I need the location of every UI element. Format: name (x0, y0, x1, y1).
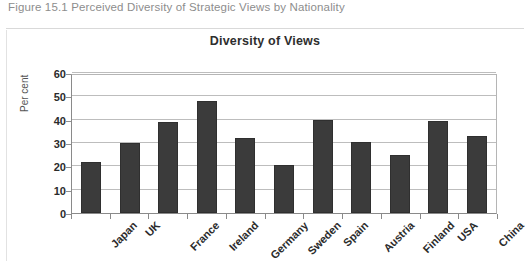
bar-slot (457, 75, 496, 213)
bar[interactable] (467, 136, 487, 213)
bar-slot (342, 75, 381, 213)
x-tick-label: Germany (268, 219, 310, 261)
bar[interactable] (197, 101, 217, 213)
y-axis-label: Per cent (19, 75, 30, 112)
x-tick-label: Finland (421, 219, 457, 255)
bar-slot (72, 75, 111, 213)
bar-slot (188, 75, 227, 213)
y-tick-label: 20 (54, 162, 66, 173)
figure-root: Figure 15.1 Perceived Diversity of Strat… (0, 0, 530, 261)
bar[interactable] (120, 143, 140, 213)
gridline (72, 72, 496, 73)
y-tick-label: 50 (54, 92, 66, 103)
bar-slot (380, 75, 419, 213)
bar-slot (111, 75, 150, 213)
x-tick-label: Sweden (305, 219, 343, 257)
plot-area (71, 74, 497, 214)
bar-slot (149, 75, 188, 213)
x-tick-label: China (496, 219, 526, 249)
x-tick-label: Ireland (226, 219, 260, 253)
y-tick-label: 40 (54, 115, 66, 126)
y-axis-tick-labels: 0102030405060 (36, 66, 66, 221)
x-tick-mark (497, 214, 498, 219)
x-tick-label: UK (143, 219, 163, 239)
bar-slot (265, 75, 304, 213)
bar[interactable] (274, 165, 294, 213)
x-tick-label: USA (455, 219, 480, 244)
bar[interactable] (313, 120, 333, 213)
y-tick-label: 60 (54, 69, 66, 80)
y-tick-label: 30 (54, 139, 66, 150)
bar[interactable] (351, 142, 371, 213)
bar[interactable] (158, 122, 178, 213)
x-tick-label: Spain (340, 219, 370, 249)
y-tick-label: 10 (54, 185, 66, 196)
x-axis-tick-labels: JapanUKFranceIrelandGermanySwedenSpainAu… (71, 219, 497, 261)
bar-chart: Per cent 0102030405060 JapanUKFranceIrel… (0, 0, 530, 261)
bar-series (72, 75, 496, 213)
bar[interactable] (81, 162, 101, 213)
bar-slot (226, 75, 265, 213)
bar[interactable] (235, 138, 255, 213)
bar-slot (419, 75, 458, 213)
x-tick-label: Austria (382, 219, 417, 254)
x-tick-label: Japan (109, 219, 140, 250)
bar[interactable] (390, 155, 410, 213)
bar-slot (303, 75, 342, 213)
bar[interactable] (428, 121, 448, 213)
x-tick-label: France (187, 219, 221, 253)
